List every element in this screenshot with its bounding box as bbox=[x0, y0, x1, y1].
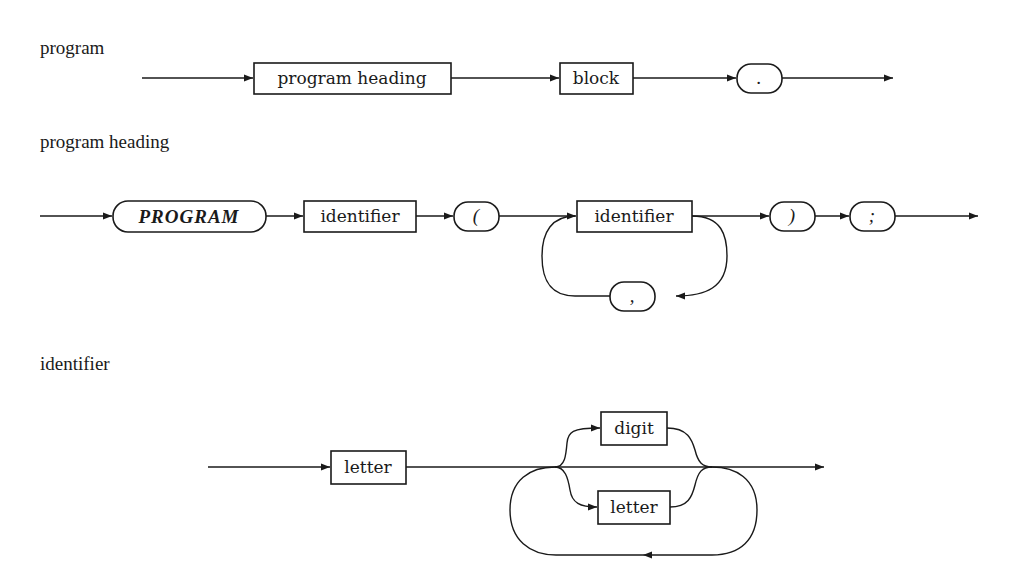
terminal-comma: , bbox=[610, 282, 655, 311]
terminal-label: ) bbox=[788, 205, 795, 227]
nonterminal-letter-repeat: letter bbox=[598, 491, 670, 524]
nonterminal-label: block bbox=[573, 68, 620, 88]
nonterminal-label: letter bbox=[344, 457, 392, 477]
branch-join-letter bbox=[670, 467, 712, 507]
terminal-label: , bbox=[630, 285, 635, 306]
section-title-program: program bbox=[40, 37, 105, 58]
nonterminal-label: identifier bbox=[320, 206, 400, 226]
section-title-program-heading: program heading bbox=[40, 131, 170, 152]
nonterminal-letter: letter bbox=[331, 451, 406, 484]
nonterminal-label: program heading bbox=[277, 68, 426, 88]
nonterminal-digit: digit bbox=[601, 412, 667, 445]
nonterminal-label: digit bbox=[614, 418, 654, 438]
section-program-heading: program heading PROGRAM identifier ( ide… bbox=[40, 131, 978, 311]
nonterminal-block: block bbox=[560, 63, 633, 94]
keyword-program: PROGRAM bbox=[113, 201, 266, 232]
terminal-semicolon: ; bbox=[850, 202, 895, 231]
branch-join-digit bbox=[667, 428, 712, 467]
nonterminal-program-heading: program heading bbox=[254, 63, 451, 94]
nonterminal-identifier: identifier bbox=[304, 201, 416, 232]
terminal-period: . bbox=[737, 64, 782, 93]
terminal-open-paren: ( bbox=[454, 202, 499, 231]
section-program: program program heading block . bbox=[40, 37, 893, 94]
terminal-label: . bbox=[757, 67, 762, 88]
nonterminal-label: letter bbox=[610, 497, 658, 517]
section-title-identifier: identifier bbox=[40, 353, 110, 374]
nonterminal-label: identifier bbox=[594, 206, 674, 226]
terminal-label: ; bbox=[869, 205, 875, 226]
nonterminal-identifier-list-item: identifier bbox=[577, 201, 692, 232]
syntax-diagram-canvas: program program heading block . program … bbox=[0, 0, 1023, 587]
branch-arrow-digit bbox=[555, 428, 600, 467]
section-identifier: identifier letter digit letter bbox=[40, 353, 824, 555]
keyword-label: PROGRAM bbox=[138, 206, 240, 227]
terminal-close-paren: ) bbox=[770, 202, 815, 231]
branch-arrow-letter bbox=[555, 467, 597, 507]
